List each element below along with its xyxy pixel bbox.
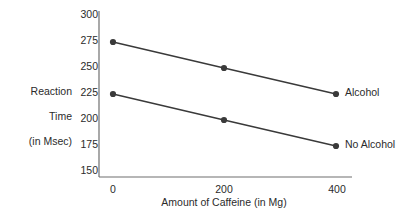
data-point-no-alcohol-400 — [333, 143, 339, 149]
reaction-time-line-chart: Reaction Time (in Msec) 300 275 250 225 … — [0, 0, 405, 222]
series-no-alcohol — [110, 91, 339, 149]
plot-area — [0, 0, 405, 222]
data-point-alcohol-200 — [221, 65, 227, 71]
data-point-no-alcohol-0 — [110, 91, 116, 97]
data-point-alcohol-400 — [333, 91, 339, 97]
series-alcohol — [110, 39, 339, 97]
data-point-no-alcohol-200 — [221, 117, 227, 123]
data-point-alcohol-0 — [110, 39, 116, 45]
